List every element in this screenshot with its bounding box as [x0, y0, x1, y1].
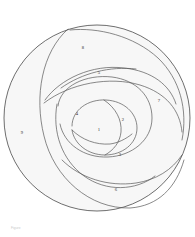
region-partition-figure: 1 2 3 4 5 6 7 8 9 Figure [0, 0, 195, 237]
figure-canvas [0, 0, 195, 237]
region-label-6: 6 [115, 188, 117, 193]
region-label-8: 8 [82, 46, 84, 51]
region-label-7: 7 [158, 99, 160, 104]
watermark-text: Figure [11, 226, 21, 230]
region-label-5: 5 [98, 71, 100, 76]
region-label-9: 9 [21, 131, 23, 136]
region-label-2: 2 [122, 118, 124, 123]
region-label-3: 3 [119, 153, 121, 158]
region-label-1: 1 [98, 128, 100, 133]
region-label-4: 4 [76, 112, 78, 117]
